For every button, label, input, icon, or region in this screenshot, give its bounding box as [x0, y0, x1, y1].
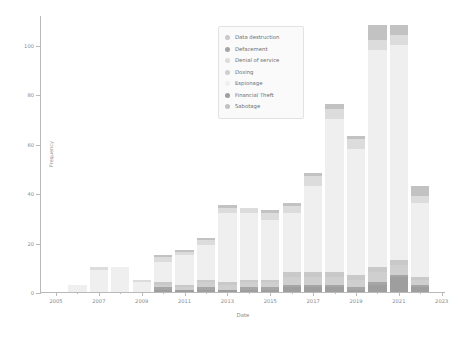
y-axis-tick — [36, 145, 41, 146]
bar-stack — [240, 208, 258, 292]
bar-stack — [304, 173, 322, 292]
legend-item[interactable]: Sabotage — [225, 101, 297, 113]
legend-item-label: Defacement — [235, 47, 267, 52]
bar-segment — [304, 277, 322, 284]
bar-segment — [411, 186, 429, 196]
bar-segment — [325, 287, 343, 292]
legend-item-label: Data destruction — [235, 35, 279, 40]
bar-segment — [304, 287, 322, 292]
x-axis-minor-tick — [206, 292, 207, 294]
x-axis-tick-label: 2021 — [392, 298, 405, 304]
bar-segment — [390, 45, 408, 260]
x-axis-tick-label: 2013 — [221, 298, 234, 304]
bar-segment — [411, 287, 429, 292]
bar-stack — [175, 250, 193, 292]
bar-stack — [68, 285, 86, 292]
bar-segment — [218, 290, 236, 292]
legend-item-label: Espionage — [235, 81, 262, 86]
x-axis-minor-tick — [77, 292, 78, 294]
x-axis-minor-tick — [377, 292, 378, 294]
y-axis-tick-label: 20 — [27, 241, 34, 247]
legend-item[interactable]: Espionage — [225, 78, 297, 90]
bar-segment — [304, 176, 322, 186]
legend-item[interactable]: Financial Theft — [225, 90, 297, 102]
bar-segment — [68, 285, 86, 292]
x-axis-tick-label: 2011 — [178, 298, 191, 304]
legend-swatch-icon — [225, 35, 230, 40]
bar-segment — [283, 277, 301, 284]
x-axis-tick-label: 2005 — [49, 298, 62, 304]
bar-stack — [218, 205, 236, 292]
legend-swatch-icon — [225, 93, 230, 98]
bar-segment — [111, 267, 129, 292]
x-axis-tick — [99, 292, 100, 296]
legend-swatch-icon — [225, 70, 230, 75]
legend-item[interactable]: Denial of service — [225, 55, 297, 67]
y-axis-tick-label: 100 — [24, 43, 34, 49]
bar-segment — [368, 285, 386, 292]
legend-swatch-icon — [225, 104, 230, 109]
bar-stack — [90, 267, 108, 292]
y-axis-tick — [36, 46, 41, 47]
bar-segment — [368, 50, 386, 268]
x-axis-tick — [56, 292, 57, 296]
legend-swatch-icon — [225, 81, 230, 86]
x-axis-tick-label: 2009 — [135, 298, 148, 304]
x-axis-minor-tick — [163, 292, 164, 294]
bar-segment — [197, 245, 215, 280]
x-axis-tick — [227, 292, 228, 296]
bar-segment — [325, 277, 343, 284]
legend-item-label: Doxing — [235, 70, 253, 75]
y-axis-tick — [36, 194, 41, 195]
bar-segment — [325, 119, 343, 272]
x-axis-tick-label: 2015 — [264, 298, 277, 304]
bar-segment — [90, 270, 108, 292]
legend-item[interactable]: Doxing — [225, 67, 297, 79]
bar-stack — [154, 255, 172, 292]
legend-item[interactable]: Data destruction — [225, 32, 297, 44]
bar-segment — [368, 40, 386, 50]
y-axis-title: Frequency — [48, 141, 54, 167]
y-axis-tick — [36, 293, 41, 294]
y-axis-tick-label: 60 — [27, 142, 34, 148]
bar-segment — [261, 220, 279, 279]
bar-segment — [175, 255, 193, 285]
x-axis-minor-tick — [120, 292, 121, 294]
legend-item[interactable]: Defacement — [225, 44, 297, 56]
bar-segment — [368, 25, 386, 40]
bar-stack — [411, 186, 429, 292]
legend-item-label: Financial Theft — [235, 93, 274, 98]
bar-segment — [261, 290, 279, 292]
bar-stack — [133, 280, 151, 292]
bar-stack — [261, 210, 279, 292]
legend-item-label: Denial of service — [235, 58, 279, 63]
x-axis-tick — [270, 292, 271, 296]
x-axis-tick — [313, 292, 314, 296]
bar-segment — [390, 277, 408, 292]
x-axis-tick-label: 2019 — [349, 298, 362, 304]
bar-segment — [347, 149, 365, 275]
bar-segment — [154, 262, 172, 282]
y-axis-tick-label: 80 — [27, 92, 34, 98]
bar-segment — [240, 290, 258, 292]
chart-figure: 020406080100 200520072009201120132015201… — [0, 0, 469, 338]
x-axis-tick — [442, 292, 443, 296]
bar-segment — [304, 186, 322, 273]
x-axis-minor-tick — [335, 292, 336, 294]
bar-segment — [261, 213, 279, 220]
y-axis-tick-label: 0 — [31, 290, 34, 296]
x-axis-tick — [399, 292, 400, 296]
legend-swatch-icon — [225, 58, 230, 63]
x-axis-title: Date — [237, 312, 250, 318]
y-axis-tick — [36, 95, 41, 96]
bar-segment — [283, 287, 301, 292]
x-axis-tick — [356, 292, 357, 296]
bar-segment — [218, 213, 236, 282]
bar-segment — [390, 35, 408, 45]
bar-segment — [283, 206, 301, 213]
bar-stack — [283, 203, 301, 292]
bar-stack — [390, 25, 408, 292]
bar-segment — [368, 272, 386, 282]
y-axis-tick — [36, 244, 41, 245]
bar-segment — [283, 213, 301, 272]
